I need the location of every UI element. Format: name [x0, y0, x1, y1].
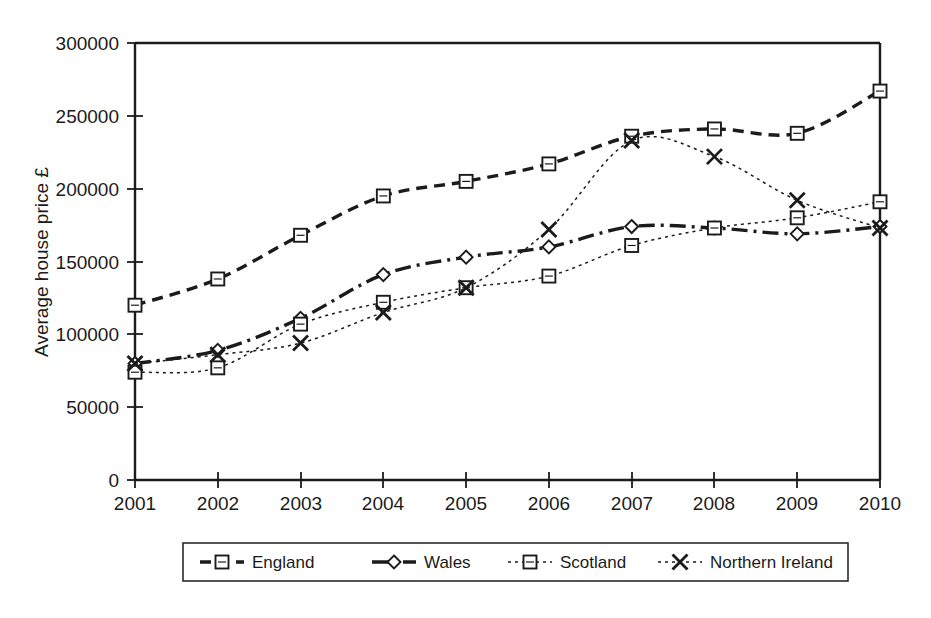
legend-label: Wales [424, 553, 471, 572]
x-tick-label: 2004 [362, 493, 405, 514]
x-tick-label: 2009 [776, 493, 818, 514]
data-point [460, 251, 473, 264]
chart-legend: EnglandWalesScotlandNorthern Ireland [183, 543, 848, 581]
legend-square-marker [216, 556, 229, 569]
data-point [791, 127, 804, 140]
data-point [874, 195, 887, 208]
series-layer [128, 85, 888, 379]
data-point [129, 299, 142, 312]
series-scotland [129, 195, 887, 378]
x-tick-labels: 2001 2002 2003 2004 2005 2006 2007 2008 … [114, 493, 901, 514]
data-point [460, 175, 473, 188]
data-point [542, 270, 555, 283]
data-point [542, 157, 555, 170]
legend-label: Northern Ireland [710, 553, 833, 572]
plot-frame [135, 43, 880, 480]
legend-item-wales[interactable]: Wales [372, 553, 471, 572]
x-tick-label: 2006 [528, 493, 570, 514]
x-tick-label: 2010 [859, 493, 901, 514]
legend-diamond-marker [388, 556, 401, 569]
y-tick-label: 150000 [56, 252, 119, 273]
data-point [791, 227, 804, 240]
data-point [377, 189, 390, 202]
chart-container: 300000 250000 200000 150000 100000 50000… [0, 0, 931, 618]
y-tick-label: 0 [108, 470, 119, 491]
y-axis-title: Average house price £ [31, 167, 52, 357]
legend-item-england[interactable]: England [200, 553, 314, 572]
series-northern-ireland [128, 133, 888, 371]
data-point [708, 122, 721, 135]
legend-items: EnglandWalesScotlandNorthern Ireland [200, 553, 833, 572]
series-line [135, 202, 880, 373]
data-point [541, 222, 556, 237]
data-point [377, 268, 390, 281]
data-point [790, 193, 805, 208]
x-tick-label: 2005 [445, 493, 487, 514]
series-wales [129, 220, 887, 370]
legend-item-scotland[interactable]: Scotland [508, 553, 626, 572]
x-tick-label: 2008 [693, 493, 735, 514]
x-tick-label: 2002 [197, 493, 239, 514]
x-tick-label: 2007 [611, 493, 653, 514]
data-point [874, 85, 887, 98]
series-england [129, 85, 887, 312]
x-tick-label: 2003 [280, 493, 322, 514]
series-line [135, 137, 880, 364]
data-point [294, 229, 307, 242]
legend-label: Scotland [560, 553, 626, 572]
house-price-line-chart: 300000 250000 200000 150000 100000 50000… [0, 0, 931, 618]
legend-square-marker [524, 556, 537, 569]
data-point [211, 272, 224, 285]
data-point [294, 318, 307, 331]
series-line [135, 225, 880, 363]
x-tick-label: 2001 [114, 493, 156, 514]
series-line [135, 91, 880, 305]
data-point [791, 211, 804, 224]
data-point [542, 240, 555, 253]
y-tick-label: 100000 [56, 324, 119, 345]
y-tick-label: 200000 [56, 179, 119, 200]
y-tick-label: 250000 [56, 106, 119, 127]
data-point [708, 221, 721, 234]
y-tick-label: 50000 [66, 397, 119, 418]
legend-item-northern-ireland[interactable]: Northern Ireland [658, 553, 833, 572]
y-tick-label: 300000 [56, 33, 119, 54]
data-point [625, 220, 638, 233]
legend-label: England [252, 553, 314, 572]
data-point [293, 336, 308, 351]
data-point [707, 149, 722, 164]
data-point [211, 361, 224, 374]
y-tick-labels: 300000 250000 200000 150000 100000 50000… [56, 33, 119, 491]
data-point [625, 239, 638, 252]
